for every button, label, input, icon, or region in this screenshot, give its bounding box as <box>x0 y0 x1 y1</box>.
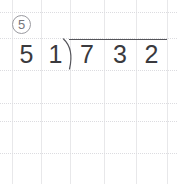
long-division-expression: 5 1 7 3 2 <box>0 0 178 184</box>
divisor-digit-tens: 5 <box>12 42 41 67</box>
dividend-digit-hundreds: 7 <box>70 42 104 67</box>
division-worksheet: 5 5 1 7 3 2 <box>0 0 178 184</box>
dividend-digit-ones: 2 <box>136 42 167 67</box>
dividend-digit-tens: 3 <box>104 42 136 67</box>
